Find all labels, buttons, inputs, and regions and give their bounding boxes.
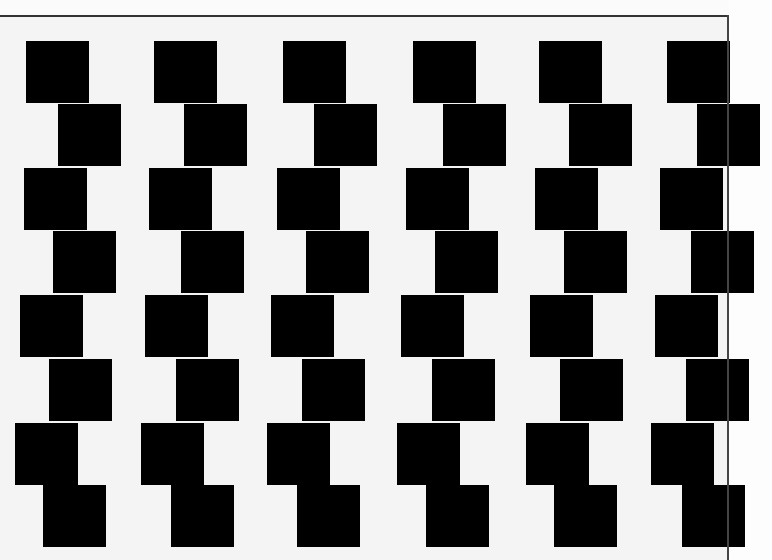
black-square [141, 423, 204, 485]
black-square [43, 485, 106, 547]
black-square [283, 41, 346, 103]
black-square [539, 41, 602, 103]
black-square [20, 295, 83, 357]
black-square [526, 423, 589, 485]
black-square [302, 359, 365, 421]
black-square [26, 41, 89, 103]
black-square [660, 168, 723, 230]
black-square [176, 359, 239, 421]
black-square [171, 485, 234, 547]
frame-top-border [0, 15, 729, 17]
frame-right-border [727, 15, 729, 560]
black-square [53, 231, 116, 293]
black-square [184, 104, 247, 166]
black-square [413, 41, 476, 103]
black-square [267, 423, 330, 485]
black-square [306, 231, 369, 293]
black-square [24, 168, 87, 230]
black-square [149, 168, 212, 230]
black-square [314, 104, 377, 166]
black-square [569, 104, 632, 166]
black-square [686, 359, 749, 421]
black-square [655, 295, 718, 357]
black-square [554, 485, 617, 547]
top-margin [0, 0, 772, 15]
black-square [682, 485, 745, 547]
black-square [397, 423, 460, 485]
black-square [560, 359, 623, 421]
black-square [401, 295, 464, 357]
illusion-canvas [0, 0, 772, 560]
black-square [432, 359, 495, 421]
black-square [667, 41, 730, 103]
black-square [15, 423, 78, 485]
black-square [154, 41, 217, 103]
black-square [443, 104, 506, 166]
black-square [297, 485, 360, 547]
black-square [277, 168, 340, 230]
black-square [426, 485, 489, 547]
black-square [564, 231, 627, 293]
black-square [435, 231, 498, 293]
black-square [49, 359, 112, 421]
black-square [691, 231, 754, 293]
black-square [145, 295, 208, 357]
black-square [271, 295, 334, 357]
black-square [530, 295, 593, 357]
black-square [58, 104, 121, 166]
black-square [535, 168, 598, 230]
black-square [406, 168, 469, 230]
black-square [651, 423, 714, 485]
black-square [181, 231, 244, 293]
